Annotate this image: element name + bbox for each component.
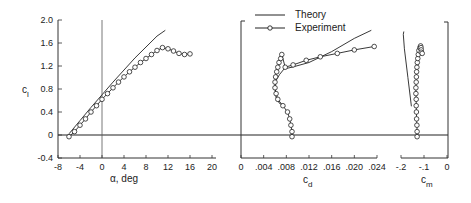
experiment-point [276, 97, 281, 102]
x-tick-label: -8 [54, 162, 62, 172]
cl-alpha-plot: -0.400.40.81.21.62.0 -8-4048121620 cl α,… [22, 15, 217, 184]
experiment-point [290, 134, 295, 139]
experiment-point [144, 56, 149, 61]
cd-axis-label: cd [303, 174, 312, 189]
experiment-point [285, 110, 290, 115]
experiment-point [304, 58, 309, 63]
experiment-point [89, 110, 94, 115]
experiment-point [352, 48, 357, 53]
experiment-point [414, 117, 419, 122]
experiment-point [415, 129, 420, 134]
y-tick-label: 2.0 [40, 15, 53, 25]
experiment-point [273, 86, 278, 91]
experiment-point [414, 75, 419, 80]
experiment-point [281, 103, 286, 108]
x-tick-label: 8 [143, 162, 148, 172]
aero-coefficients-chart: -0.400.40.81.21.62.0 -8-4048121620 cl α,… [0, 0, 471, 203]
experiment-point [83, 117, 88, 122]
cl-cd-series [273, 30, 377, 139]
experiment-point [274, 91, 279, 96]
experiment-point [149, 52, 154, 57]
y-tick-label: 0.8 [40, 84, 53, 94]
cl-cm-series [403, 32, 424, 140]
x-tick-label: 20 [207, 162, 217, 172]
experiment-point [415, 123, 420, 128]
x-tick-label: .012 [300, 162, 318, 172]
legend-theory-label: Theory [295, 9, 326, 20]
experiment-point [414, 86, 419, 91]
x-tick-label: -.1 [419, 162, 430, 172]
experiment-point [287, 117, 292, 122]
experiment-point [116, 80, 121, 85]
experiment-point [122, 75, 127, 80]
experiment-point [273, 80, 278, 85]
y-tick-label: 1.6 [40, 38, 53, 48]
legend: Theory Experiment [255, 9, 346, 33]
experiment-point [372, 44, 377, 49]
experiment-point [78, 123, 83, 128]
experiment-line [69, 48, 190, 137]
experiment-point [133, 65, 138, 70]
x-tick-label: 4 [121, 162, 126, 172]
x-tick-label: .016 [323, 162, 341, 172]
experiment-point [420, 51, 425, 56]
x-tick-label: .008 [278, 162, 296, 172]
y-tick-label: 0 [48, 130, 53, 140]
cl-axis-label: cl [22, 84, 29, 99]
experiment-point [414, 80, 419, 85]
x-tick-label: 0 [444, 162, 449, 172]
experiment-point [274, 70, 279, 75]
experiment-point [171, 49, 176, 54]
experiment-point [94, 103, 99, 108]
experiment-point [160, 45, 165, 50]
experiment-point [273, 75, 278, 80]
experiment-point [188, 52, 193, 57]
experiment-point [72, 129, 77, 134]
cl-cd-plot: 0.004.008.012.016.020.024 cd [238, 21, 385, 189]
x-tick-label: .024 [368, 162, 386, 172]
experiment-point [318, 55, 323, 60]
experiment-point [182, 52, 187, 57]
cl-cm-plot: -.2-.10 cm [396, 22, 450, 189]
experiment-point [177, 51, 182, 56]
experiment-point [414, 91, 419, 96]
y-tick-label: 1.2 [40, 61, 53, 71]
cl-alpha-series [67, 30, 193, 139]
y-tick-label: 0.4 [40, 107, 53, 117]
experiment-point [280, 52, 285, 57]
x-tick-label: 12 [163, 162, 173, 172]
experiment-point [415, 65, 420, 70]
experiment-point [415, 134, 420, 139]
x-tick-label: 0 [238, 162, 243, 172]
experiment-point [166, 47, 171, 52]
experiment-point [127, 70, 132, 75]
legend-experiment-marker [268, 26, 272, 30]
experiment-point [283, 65, 288, 70]
experiment-point [414, 103, 419, 108]
x-tick-label: .020 [346, 162, 364, 172]
experiment-point [155, 48, 160, 53]
experiment-point [111, 86, 116, 91]
experiment-point [67, 134, 72, 139]
experiment-point [100, 97, 105, 102]
experiment-point [414, 70, 419, 75]
alpha-axis-label: α, deg [110, 173, 138, 184]
experiment-point [414, 97, 419, 102]
theory-line [275, 30, 371, 106]
experiment-point [414, 110, 419, 115]
legend-experiment-label: Experiment [295, 22, 346, 33]
theory-line [403, 32, 411, 107]
experiment-point [335, 51, 340, 56]
experiment-point [289, 123, 294, 128]
x-tick-label: .004 [255, 162, 273, 172]
x-tick-label: -.2 [396, 162, 407, 172]
experiment-point [290, 129, 295, 134]
x-tick-label: 0 [99, 162, 104, 172]
experiment-point [291, 63, 296, 68]
experiment-point [276, 65, 281, 70]
x-tick-label: 16 [185, 162, 195, 172]
cm-axis-label: cm [421, 174, 433, 189]
experiment-point [105, 91, 110, 96]
experiment-point [138, 60, 143, 65]
y-tick-label: -0.4 [37, 153, 53, 163]
